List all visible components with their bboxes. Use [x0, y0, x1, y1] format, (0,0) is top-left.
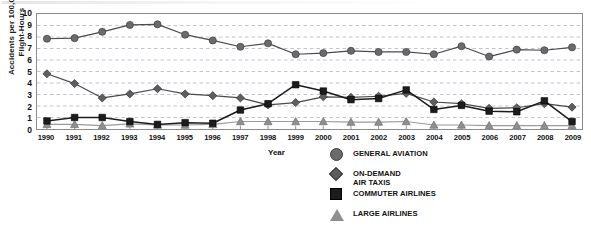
legend-item-general-aviation[interactable]: GENERAL AVIATION	[330, 148, 585, 163]
y-tick-4: 4	[6, 78, 32, 88]
series-point-general-aviation-1995	[182, 31, 189, 38]
legend-item-commuter-airlines[interactable]: COMMUTER AIRLINES	[330, 188, 585, 203]
series-point-general-aviation-2007	[513, 46, 520, 53]
series-point-commuter-airlines-1992	[99, 114, 106, 120]
series-point-on-demand-1990	[43, 70, 51, 78]
series-point-general-aviation-2002	[375, 48, 382, 55]
circle-marker-icon-shape	[330, 148, 343, 161]
series-point-on-demand-1991	[71, 80, 79, 88]
series-point-commuter-airlines-1998	[265, 100, 272, 106]
series-point-general-aviation-1997	[237, 43, 244, 50]
series-point-general-aviation-1992	[99, 28, 106, 35]
accident-rate-chart: Accidents per 100,000 Flight-Hours 01234…	[0, 0, 591, 227]
series-point-general-aviation-2009	[568, 44, 575, 51]
series-point-general-aviation-2008	[541, 47, 548, 54]
series-point-commuter-airlines-2000	[320, 88, 327, 94]
series-point-commuter-airlines-2009	[569, 118, 576, 124]
series-point-on-demand-1996	[209, 92, 217, 100]
series-point-on-demand-1993	[126, 90, 134, 98]
square-marker-icon-shape	[330, 188, 342, 200]
series-point-general-aviation-2006	[486, 53, 493, 60]
triangle-marker-icon-shape	[330, 209, 344, 221]
series-point-general-aviation-2003	[403, 48, 410, 55]
series-point-commuter-airlines-1990	[44, 118, 51, 124]
series-point-commuter-airlines-2008	[541, 98, 548, 104]
series-point-commuter-airlines-2002	[375, 95, 382, 101]
diamond-marker-icon-shape	[329, 167, 343, 181]
series-point-commuter-airlines-1996	[209, 120, 216, 126]
x-axis-title: Year	[268, 148, 285, 157]
series-point-on-demand-1997	[236, 94, 244, 102]
series-point-general-aviation-1990	[43, 35, 50, 42]
y-tick-7: 7	[6, 43, 32, 53]
series-point-general-aviation-1998	[264, 40, 271, 47]
series-point-commuter-airlines-1991	[71, 114, 78, 120]
series-point-on-demand-1992	[98, 94, 106, 102]
legend-label-commuter-airlines: COMMUTER AIRLINES	[353, 188, 436, 199]
series-point-on-demand-1994	[153, 85, 161, 93]
y-tick-8: 8	[6, 31, 32, 41]
series-point-general-aviation-2001	[347, 47, 354, 54]
y-tick-5: 5	[6, 67, 32, 77]
y-tick-9: 9	[6, 20, 32, 30]
series-point-general-aviation-1996	[209, 37, 216, 44]
series-point-general-aviation-1994	[154, 21, 161, 28]
y-tick-6: 6	[6, 55, 32, 65]
series-point-commuter-airlines-1999	[292, 81, 299, 87]
series-point-on-demand-1999	[292, 99, 300, 107]
legend-item-on-demand[interactable]: ON-DEMAND AIR TAXIS	[330, 168, 585, 183]
y-tick-3: 3	[6, 90, 32, 100]
circle-marker-icon	[330, 148, 344, 162]
legend-label-general-aviation: GENERAL AVIATION	[353, 148, 428, 159]
series-point-general-aviation-2005	[458, 43, 465, 50]
series-point-commuter-airlines-2005	[458, 102, 465, 108]
series-line-on-demand	[47, 74, 572, 109]
scan-artifact	[2, 1, 562, 4]
series-point-general-aviation-2000	[320, 50, 327, 57]
series-line-general-aviation	[47, 24, 572, 56]
legend-label-large-airlines: LARGE AIRLINES	[353, 208, 418, 219]
chart-legend: GENERAL AVIATIONON-DEMAND AIR TAXISCOMMU…	[330, 148, 585, 227]
x-tick-2009: 2009	[553, 133, 591, 142]
series-point-commuter-airlines-2003	[403, 87, 410, 93]
plot-area	[36, 13, 583, 130]
series-point-general-aviation-1999	[292, 51, 299, 58]
series-point-commuter-airlines-1997	[237, 107, 244, 113]
series-point-general-aviation-1993	[126, 21, 133, 28]
series-point-commuter-airlines-2004	[431, 106, 438, 112]
series-point-commuter-airlines-1994	[154, 121, 161, 127]
series-point-general-aviation-2004	[430, 51, 437, 58]
series-point-commuter-airlines-1995	[182, 119, 189, 125]
series-point-on-demand-1995	[181, 90, 189, 98]
square-marker-icon	[330, 188, 344, 202]
data-series-layer	[37, 14, 582, 129]
series-point-commuter-airlines-2006	[486, 108, 493, 114]
series-point-general-aviation-1991	[71, 35, 78, 42]
series-point-commuter-airlines-2007	[513, 109, 520, 115]
legend-item-large-airlines[interactable]: LARGE AIRLINES	[330, 208, 585, 223]
triangle-marker-icon	[330, 208, 344, 222]
legend-label-on-demand: ON-DEMAND AIR TAXIS	[353, 168, 401, 187]
series-point-commuter-airlines-1993	[127, 118, 134, 124]
series-line-large-airlines	[47, 122, 572, 126]
y-tick-2: 2	[6, 102, 32, 112]
y-tick-10: 10	[6, 8, 32, 18]
series-line-commuter-airlines	[47, 85, 572, 125]
series-point-on-demand-2004	[430, 98, 438, 106]
series-point-commuter-airlines-2001	[348, 96, 355, 102]
series-point-on-demand-2009	[568, 103, 576, 111]
diamond-marker-icon	[330, 168, 344, 182]
y-tick-1: 1	[6, 113, 32, 123]
